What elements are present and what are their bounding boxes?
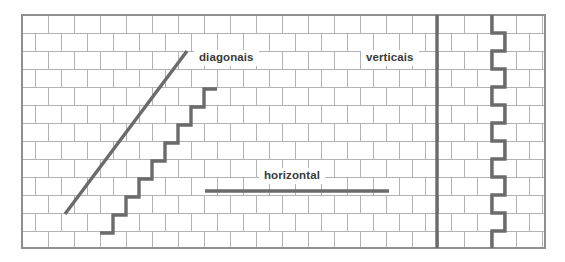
label-verticais: verticais (361, 50, 419, 66)
masonry-crack-diagram: diagonais verticais horizontal (0, 0, 565, 262)
label-diagonais: diagonais (194, 50, 259, 66)
label-horizontal: horizontal (259, 168, 325, 184)
brick-courses (22, 15, 545, 248)
wall-diagram-canvas (0, 0, 565, 262)
